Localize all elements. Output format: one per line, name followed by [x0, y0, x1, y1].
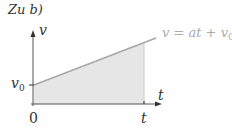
v0-label: v0	[11, 75, 25, 93]
y-axis-label: v	[39, 22, 47, 38]
origin-label: 0	[29, 110, 38, 126]
x-axis-label: t	[158, 87, 164, 103]
t-tick-label: t	[141, 110, 147, 126]
line-equation: v = at + v0	[162, 25, 232, 42]
area-under-line	[34, 42, 144, 104]
y-axis-arrow-icon	[31, 30, 36, 37]
